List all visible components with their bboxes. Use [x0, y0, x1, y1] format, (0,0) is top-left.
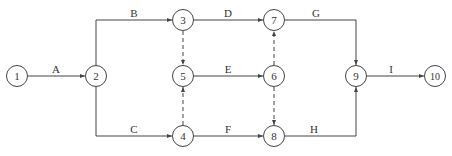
- network-diagram: A B C D E F G H I 1 2: [0, 0, 452, 156]
- node-label: 2: [93, 70, 99, 82]
- activity-label-b: B: [130, 7, 137, 19]
- node-7: 7: [264, 10, 285, 31]
- node-label: 7: [271, 14, 277, 26]
- node-label: 1: [14, 70, 20, 82]
- activity-e: E: [194, 63, 263, 76]
- activity-a: A: [28, 63, 85, 76]
- node-label: 5: [180, 70, 186, 82]
- node-5: 5: [173, 66, 194, 87]
- activity-f: F: [194, 123, 263, 136]
- activity-label-g: G: [312, 7, 320, 19]
- activity-c: C: [96, 87, 172, 136]
- node-4: 4: [173, 126, 194, 147]
- activity-label-e: E: [225, 63, 232, 75]
- node-10: 10: [425, 66, 446, 87]
- activity-g: G: [285, 7, 356, 65]
- activity-b: B: [96, 7, 172, 65]
- activity-label-h: H: [310, 123, 318, 135]
- activity-d: D: [194, 7, 263, 20]
- node-label: 4: [180, 130, 186, 142]
- node-1: 1: [7, 66, 28, 87]
- node-6: 6: [264, 66, 285, 87]
- activity-label-c: C: [130, 123, 137, 135]
- node-9: 9: [346, 66, 367, 87]
- node-3: 3: [173, 10, 194, 31]
- node-2: 2: [86, 66, 107, 87]
- activity-h: H: [285, 87, 356, 136]
- node-label: 8: [271, 130, 277, 142]
- node-8: 8: [264, 126, 285, 147]
- activity-i: I: [367, 63, 424, 76]
- node-label: 10: [430, 71, 440, 82]
- node-label: 9: [353, 70, 359, 82]
- node-label: 3: [180, 14, 186, 26]
- activity-label-a: A: [52, 63, 60, 75]
- activity-label-i: I: [389, 63, 393, 75]
- activity-label-d: D: [224, 7, 232, 19]
- node-label: 6: [271, 70, 277, 82]
- activity-label-f: F: [225, 123, 231, 135]
